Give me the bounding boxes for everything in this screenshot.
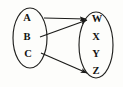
domain-element-c: C — [24, 48, 32, 59]
domain-element-b: B — [23, 31, 30, 42]
codomain-element-x: X — [92, 31, 100, 42]
codomain-element-y: Y — [92, 48, 100, 59]
domain-element-a: A — [23, 12, 31, 23]
codomain-element-z: Z — [92, 65, 99, 76]
mapping-diagram: A B C W X Y Z — [0, 0, 123, 87]
codomain-element-w: W — [92, 13, 103, 24]
arrow-a-to-w — [44, 18, 86, 19]
mapping-diagram-canvas: A B C W X Y Z — [0, 0, 123, 87]
